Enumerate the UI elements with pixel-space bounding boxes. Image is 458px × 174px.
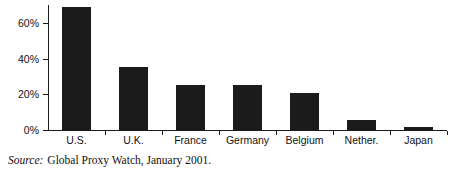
- category-label-1: U.K.: [105, 134, 162, 146]
- y-tick-label-3: 60%: [0, 18, 39, 29]
- x-tick-7: [447, 131, 448, 135]
- category-label-3: Germany: [219, 134, 276, 146]
- y-tick-0: [43, 130, 48, 131]
- y-tick-label-0: 0%: [0, 125, 39, 136]
- bar-belgium: [290, 93, 319, 131]
- plot-area: 0%20%40%60% U.S.U.K.FranceGermanyBelgium…: [0, 0, 458, 145]
- bar-germany: [233, 85, 262, 130]
- source-label: Source:: [8, 154, 43, 166]
- bar-u-k: [119, 67, 148, 130]
- y-tick-label-1: 20%: [0, 89, 39, 100]
- source-text: Global Proxy Watch, January 2001.: [47, 154, 211, 166]
- category-label-0: U.S.: [48, 134, 105, 146]
- bar-france: [176, 85, 205, 130]
- bar-u-s: [62, 7, 91, 130]
- category-label-4: Belgium: [276, 134, 333, 146]
- bar-chart-figure: 0%20%40%60% U.S.U.K.FranceGermanyBelgium…: [0, 0, 458, 174]
- category-label-2: France: [162, 134, 219, 146]
- category-label-6: Japan: [390, 134, 447, 146]
- bar-nether: [347, 120, 376, 130]
- y-tick-3: [43, 23, 48, 24]
- y-tick-1: [43, 94, 48, 95]
- source-note: Source:Global Proxy Watch, January 2001.: [8, 154, 211, 167]
- y-tick-label-2: 40%: [0, 54, 39, 65]
- x-axis-line: [48, 130, 447, 131]
- y-axis-line: [48, 5, 49, 131]
- y-tick-2: [43, 59, 48, 60]
- category-label-5: Nether.: [333, 134, 390, 146]
- bar-japan: [404, 127, 433, 130]
